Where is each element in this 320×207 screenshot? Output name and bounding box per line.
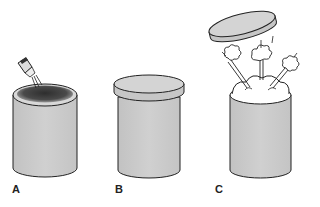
gas-jet-left	[222, 45, 250, 88]
panel-a: A	[12, 57, 77, 195]
container-closed	[114, 75, 184, 178]
puff-icon	[282, 56, 299, 71]
gas-jet-center	[252, 36, 274, 80]
puff-icon	[252, 45, 272, 61]
panel-c: C	[207, 6, 299, 195]
panel-b: B	[114, 75, 184, 195]
container-open	[13, 84, 77, 177]
puff-icon	[224, 45, 241, 61]
lid	[114, 75, 184, 101]
panel-label-b: B	[115, 183, 123, 195]
container-erupting	[230, 76, 291, 178]
panel-label-a: A	[12, 183, 20, 195]
dropper-icon	[18, 57, 42, 88]
container-reaction-diagram: A B	[0, 0, 320, 207]
panel-label-c: C	[215, 183, 223, 195]
lid-flying	[207, 6, 279, 47]
liquid-surface	[17, 86, 73, 103]
